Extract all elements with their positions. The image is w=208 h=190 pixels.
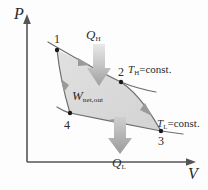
state-label-4: 4 [64, 119, 70, 131]
isotherm-low-suffix: =const. [168, 117, 200, 129]
axis-label-volume: V [188, 166, 198, 182]
pv-diagram-figure: P V 1 2 3 4 QH QL Wnet,out TH=const. TL=… [0, 0, 208, 190]
work-label: Wnet,out [72, 89, 103, 104]
isotherm-high-label: TH=const. [128, 64, 171, 77]
state-point-4 [68, 111, 72, 115]
q-high-subscript: H [95, 35, 100, 43]
q-low-symbol: Q [112, 155, 121, 170]
state-label-2: 2 [118, 66, 124, 78]
isotherm-high-suffix: =const. [139, 63, 171, 75]
work-symbol: W [72, 88, 83, 103]
q-high-symbol: Q [86, 27, 95, 42]
state-point-2 [119, 80, 123, 84]
axis-label-pressure: P [14, 6, 24, 22]
isotherm-low-label: TL=const. [157, 118, 200, 131]
q-high-label: QH [86, 28, 101, 43]
diagram-canvas [0, 0, 208, 190]
q-low-label: QL [112, 156, 126, 171]
state-label-1: 1 [54, 33, 60, 45]
work-subscript: net,out [83, 96, 103, 104]
state-label-3: 3 [158, 135, 164, 147]
state-point-1 [55, 48, 59, 52]
q-low-subscript: L [121, 163, 125, 171]
